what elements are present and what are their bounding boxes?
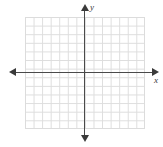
y-axis-down-arrowhead-icon [81,135,89,142]
coordinate-plane-figure: y x [0,0,163,147]
y-axis-up-arrowhead-icon [81,4,89,11]
x-axis-left-arrowhead-icon [9,68,16,76]
y-axis-line [84,10,85,138]
x-axis-label: x [154,76,158,85]
y-axis-label: y [90,3,94,12]
